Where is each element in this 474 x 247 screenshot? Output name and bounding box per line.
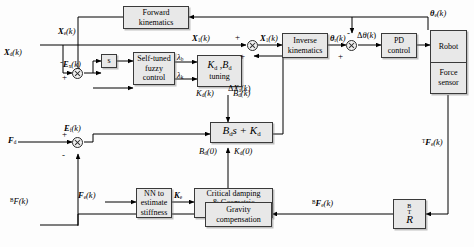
sign-plus-ref-top: + <box>235 32 240 42</box>
inverse-line2: kinematics <box>288 46 323 56</box>
label-xd: Xd(k) <box>4 47 22 57</box>
inverse-line1: Inverse <box>293 36 317 46</box>
derivative-label: s <box>107 56 110 66</box>
tuning-math-line: Kd ,Bd <box>208 60 232 72</box>
fuzzy-line3: control <box>143 73 166 83</box>
gravity-line2: compensation <box>216 215 260 225</box>
block-derivative-s[interactable]: s <box>101 54 117 68</box>
summing-junction-reference-position[interactable] <box>247 40 258 51</box>
block-nn-estimate-stiffness[interactable]: NN to estimate stiffness <box>136 188 172 218</box>
label-fe: Fe(k) <box>78 190 95 200</box>
label-ke: Ke <box>174 190 182 200</box>
summing-junction-force-error[interactable] <box>72 137 83 148</box>
critical-line1: Critical damping <box>207 189 261 199</box>
impedance-equation: Bds + Kd <box>222 126 260 138</box>
label-fd: Fd <box>8 135 16 145</box>
label-theta-e: θe(k) <box>430 8 446 18</box>
label-delta-xa: ΔXa(k) <box>228 83 250 93</box>
sign-minus-position: - <box>60 57 63 67</box>
summing-junction-joint-error[interactable] <box>346 40 357 51</box>
label-delta-theta: Δθ(k) <box>357 30 376 40</box>
label-theta-r: θr(k) <box>330 33 346 43</box>
sign-minus-joint: - <box>347 28 350 38</box>
force-sensor-cell: Force sensor <box>431 63 466 94</box>
label-lambda-k: λk <box>177 70 183 80</box>
label-x1-right: X1(k) <box>260 33 278 43</box>
block-robot-force-sensor[interactable]: Robot Force sensor <box>430 30 467 94</box>
label-b-fe: BFe(k) <box>312 198 333 208</box>
block-diagram-canvas: Forward kinematics s Self-tuned fuzzy co… <box>0 0 474 247</box>
nn-line3: stiffness <box>141 208 168 218</box>
fuzzy-line2: fuzzy <box>145 64 163 74</box>
label-kd-0: Kd(0) <box>234 146 252 156</box>
sign-plus-position: + <box>62 72 67 82</box>
block-inverse-kinematics[interactable]: Inverse kinematics <box>282 33 328 58</box>
label-t-fe: TFe(k) <box>422 137 443 147</box>
tuning-line2: tuning <box>209 72 229 82</box>
nn-line1: NN to <box>144 189 164 199</box>
sign-plus-force: + <box>62 129 67 139</box>
sign-plus-ref-bottom: + <box>240 51 245 61</box>
pd-line1: PD <box>394 36 404 46</box>
fuzzy-line1: Self-tuned <box>137 54 170 64</box>
label-b-f: BF(k) <box>10 196 28 206</box>
robot-label: Robot <box>439 42 459 52</box>
forward-kinematics-line1: Forward <box>142 8 169 18</box>
gravity-line1: Gravity <box>226 205 250 215</box>
robot-cell: Robot <box>431 31 466 63</box>
sign-minus-force: - <box>62 150 65 160</box>
block-rotation-matrix[interactable]: BT R <box>393 199 426 229</box>
nn-line2: estimate <box>141 198 168 208</box>
label-lambda-b: λb <box>177 52 183 62</box>
block-forward-kinematics[interactable]: Forward kinematics <box>123 6 189 29</box>
block-self-tuned-fuzzy-control[interactable]: Self-tuned fuzzy control <box>133 52 175 85</box>
force-sensor-line1: Force <box>439 68 457 78</box>
block-pd-control[interactable]: PD control <box>381 33 417 58</box>
pd-line2: control <box>388 46 411 56</box>
label-bd-0: Bd(0) <box>199 146 217 156</box>
block-gravity-compensation[interactable]: Gravity compensation <box>205 202 272 227</box>
block-impedance-bds-plus-kd[interactable]: Bds + Kd <box>210 122 273 143</box>
sign-plus-joint: + <box>338 51 343 61</box>
summing-junction-position-error[interactable] <box>72 68 83 79</box>
forward-kinematics-line2: kinematics <box>139 18 174 28</box>
label-xe: Xe(k) <box>58 26 75 36</box>
rotation-matrix-label: BT R <box>406 203 413 225</box>
force-sensor-line2: sensor <box>438 78 458 88</box>
label-x1-left: X1(k) <box>192 33 210 43</box>
label-kd-k: Kd(k) <box>196 88 214 98</box>
label-ex: Ex(k) <box>63 59 81 69</box>
